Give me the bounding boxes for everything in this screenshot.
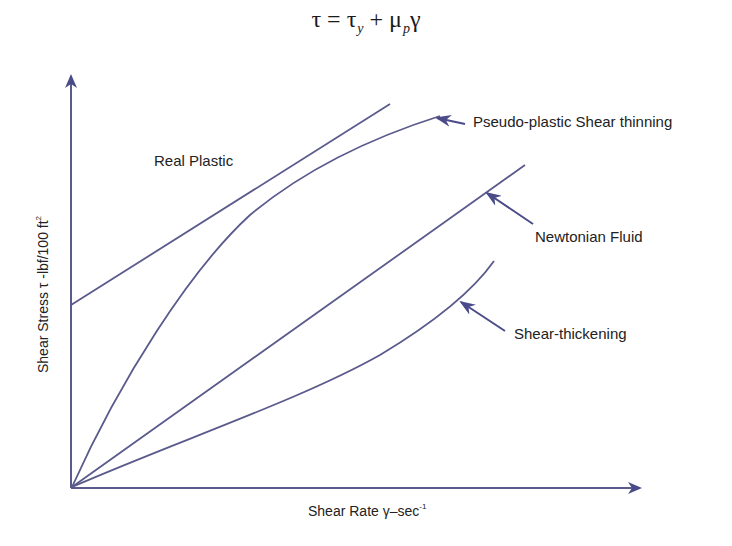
curve-newtonian bbox=[72, 165, 525, 487]
curve-shear-thickening bbox=[72, 261, 494, 487]
arrow-shear-thickening bbox=[461, 302, 505, 331]
label-pseudo-plastic: Pseudo-plastic Shear thinning bbox=[473, 113, 672, 130]
x-axis-label-main: Shear Rate γ–sec bbox=[308, 503, 419, 519]
label-real-plastic: Real Plastic bbox=[154, 152, 234, 169]
y-axis-label-main: Shear Stress τ -lbf/100 ft bbox=[35, 220, 51, 373]
y-axis-label: Shear Stress τ -lbf/100 ft2 bbox=[34, 215, 51, 373]
arrow-newtonian bbox=[487, 193, 533, 224]
label-shear-thickening: Shear-thickening bbox=[514, 325, 627, 342]
label-newtonian: Newtonian Fluid bbox=[535, 228, 643, 245]
curve-pseudo-plastic bbox=[72, 116, 440, 487]
x-axis-label-sup: -1 bbox=[419, 502, 427, 511]
y-axis-label-sup: 2 bbox=[34, 215, 43, 220]
arrow-pseudo-plastic bbox=[437, 118, 465, 124]
curve-real-plastic bbox=[71, 104, 390, 305]
x-axis-label: Shear Rate γ–sec-1 bbox=[308, 502, 427, 519]
rheology-chart: Real Plastic Pseudo-plastic Shear thinni… bbox=[0, 0, 732, 546]
